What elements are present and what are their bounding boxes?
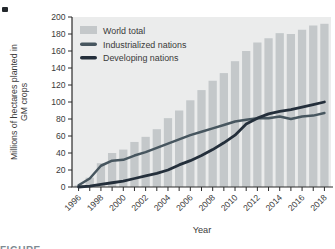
y-tick-label: 20 (56, 165, 66, 175)
developing-nations-swatch (80, 56, 97, 60)
bar-2008 (209, 81, 217, 187)
x-tick-label: 1996 (62, 192, 83, 213)
bar-2010 (231, 61, 239, 187)
x-axis-title: Year (72, 225, 332, 235)
bar-2003 (153, 129, 161, 187)
y-tick-label: 40 (56, 148, 66, 158)
y-tick-label: 100 (51, 97, 66, 107)
bar-2006 (186, 100, 194, 187)
clipped-caption: FIGURE (0, 244, 335, 249)
y-axis-title: Millions of hectares planted in GM crops (9, 40, 33, 164)
y-tick-label: 200 (51, 12, 66, 22)
y-tick-label: 120 (51, 80, 66, 90)
bar-2009 (220, 73, 228, 187)
x-tick-label: 2004 (152, 192, 173, 213)
legend-label-industrialized-nations: Industrialized nations (103, 40, 187, 50)
page-crop-mark (2, 7, 8, 12)
bar-2005 (175, 111, 183, 188)
y-tick-label: 60 (56, 131, 66, 141)
legend-label-world-total: World total (103, 26, 145, 36)
x-tick-label: 2014 (264, 192, 285, 213)
bar-2002 (141, 137, 149, 187)
gm-crops-chart: 0204060801001201401601802001996199820002… (0, 0, 335, 235)
legend-label-developing-nations: Developing nations (103, 53, 179, 63)
x-tick-label: 2002 (129, 192, 150, 213)
x-tick-label: 2008 (196, 192, 217, 213)
y-tick-label: 160 (51, 46, 66, 56)
bar-2007 (197, 90, 205, 187)
x-axis-ticks: 1996199820002002200420062008201020122014… (62, 187, 329, 213)
x-tick-label: 2012 (241, 192, 262, 213)
gm-crops-figure: Millions of hectares planted in GM crops… (0, 0, 335, 249)
industrialized-nations-swatch (80, 43, 97, 47)
x-tick-label: 2010 (219, 192, 240, 213)
y-tick-label: 0 (61, 182, 66, 192)
world-total-swatch (80, 26, 97, 34)
x-tick-label: 2016 (286, 192, 307, 213)
y-axis-ticks: 020406080100120140160180200 (51, 12, 72, 192)
y-tick-label: 180 (51, 29, 66, 39)
x-tick-label: 2000 (107, 192, 128, 213)
clipped-caption-text: FIGURE (0, 244, 335, 249)
bar-2004 (164, 118, 172, 187)
x-tick-label: 2018 (308, 192, 329, 213)
x-tick-label: 1998 (85, 192, 106, 213)
y-tick-label: 80 (56, 114, 66, 124)
bar-2018 (320, 24, 328, 187)
y-tick-label: 140 (51, 63, 66, 73)
x-tick-label: 2006 (174, 192, 195, 213)
bar-2012 (253, 43, 261, 188)
